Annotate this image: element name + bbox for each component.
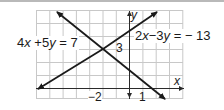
equation-label-1: 4x +5y = 7: [16, 36, 79, 50]
coordinate-graph: [0, 0, 224, 110]
equation-label-2: 2x−3y = − 13: [134, 29, 212, 43]
y-tick-label-3: 3: [116, 42, 123, 55]
y-axis-label: y: [131, 9, 137, 21]
x-tick-label-neg2: −2: [88, 91, 102, 104]
plotted-lines: [38, 12, 165, 99]
x-axis-label: x: [174, 75, 180, 87]
line-2x-minus-3y-eq-neg13-lower: [38, 49, 103, 89]
x-tick-label-1: 1: [139, 91, 146, 104]
